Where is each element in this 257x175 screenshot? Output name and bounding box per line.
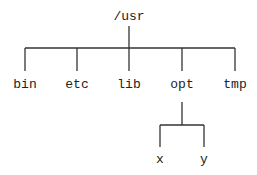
node-x: x	[156, 153, 164, 166]
directory-tree-diagram: /usr bin etc lib opt tmp x y	[0, 0, 257, 175]
node-bin: bin	[13, 78, 36, 91]
node-root: /usr	[113, 10, 144, 23]
node-opt: opt	[170, 78, 193, 91]
node-etc: etc	[65, 78, 88, 91]
node-tmp: tmp	[223, 78, 246, 91]
node-lib: lib	[117, 78, 140, 91]
node-y: y	[200, 153, 208, 166]
